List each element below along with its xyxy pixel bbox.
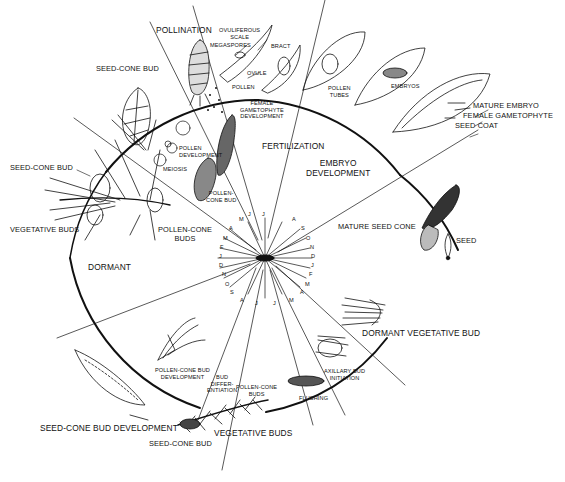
month-label: S <box>230 289 234 296</box>
seed-cone-bud-drawing <box>112 88 156 150</box>
phase-dormant: DORMANT <box>88 262 131 272</box>
bottom-branch-drawing <box>178 397 268 432</box>
label-pollen-cone-bud: POLLEN- CONE BUD <box>206 190 236 203</box>
phase-embryo-development: EMBRYO DEVELOPMENT <box>306 158 370 178</box>
spoke-hub <box>256 255 274 261</box>
label-ovule: OVULE <box>247 70 266 77</box>
label-seed: SEED <box>456 237 477 246</box>
label-seed-coat: SEED COAT <box>455 122 498 131</box>
month-label: J <box>311 262 314 269</box>
phase-pollination: POLLINATION <box>156 25 212 35</box>
label-embryos: EMBRYOS <box>391 83 420 90</box>
pollen-cone-bud-development-drawing <box>158 318 205 360</box>
label-ovuliferous-scale: OVULIFEROUS SCALE <box>219 27 260 40</box>
label-pollen-tubes: POLLEN TUBES <box>328 85 351 98</box>
month-label: M <box>223 235 228 242</box>
month-label: J <box>248 211 251 218</box>
label-pollen-cone-buds-bottom: POLLEN-CONE BUDS <box>236 384 277 397</box>
month-label: A <box>292 216 296 223</box>
phase-flushing: FLUSHING <box>299 395 328 402</box>
phase-axillary-bud-initiation: AXILLARY BUD INITIATION <box>324 368 365 381</box>
month-label: O <box>306 235 310 242</box>
label-bract: BRACT <box>271 43 290 50</box>
phase-seed-cone-bud-development: SEED-CONE BUD DEVELOPMENT <box>40 423 178 433</box>
phase-meiosis: MEIOSIS <box>163 166 187 173</box>
label-dormant-vegetative-bud: DORMANT VEGETATIVE BUD <box>362 328 480 338</box>
month-label: F <box>220 244 224 251</box>
label-seed-cone-bud-top: SEED-CONE BUD <box>96 65 159 74</box>
label-female-gametophyte: FEMALE GAMETOPHYTE <box>463 112 553 121</box>
label-mature-embryo: MATURE EMBRYO <box>473 102 539 111</box>
label-seed-cone-bud-bottom: SEED-CONE BUD <box>149 440 212 449</box>
label-pollen-cone-buds-left: POLLEN-CONE BUDS <box>158 226 212 243</box>
month-label: O <box>225 281 229 288</box>
label-megaspores: MEGASPORES <box>210 42 251 49</box>
month-label: M <box>305 281 310 288</box>
month-label: J <box>273 300 276 307</box>
phase-female-gametophyte-development: FEMALE GAMETOPHYTE DEVELOPMENT <box>240 100 284 120</box>
dormant-vegetative-bud-drawing <box>342 298 385 325</box>
label-pollen: POLLEN <box>232 84 255 91</box>
label-vegetative-buds-bottom: VEGETATIVE BUDS <box>214 428 292 438</box>
diagram-graphics <box>0 0 565 482</box>
month-label: J <box>262 211 265 218</box>
label-seed-cone-bud-left: SEED-CONE BUD <box>10 164 73 173</box>
month-label: A <box>240 297 244 304</box>
month-label: N <box>222 271 226 278</box>
month-label: M <box>289 297 294 304</box>
month-label: F <box>309 271 313 278</box>
month-label: M <box>239 216 244 223</box>
month-label: S <box>301 225 305 232</box>
pollen-cells <box>154 121 190 166</box>
phase-pollen-cone-bud-development: POLLEN-CONE BUD DEVELOPMENT <box>155 367 210 380</box>
month-label: D <box>311 253 315 260</box>
month-label: J <box>255 300 258 307</box>
axillary-bud-drawing <box>316 336 348 357</box>
flushing-drawing <box>288 376 324 386</box>
month-label: A <box>300 289 304 296</box>
month-label: J <box>219 253 222 260</box>
phase-pollen-development: POLLEN DEVELOPMENT <box>179 145 222 158</box>
mature-seed-cone-drawing <box>421 185 460 260</box>
conifer-reproductive-cycle-diagram: POLLINATION FEMALE GAMETOPHYTE DEVELOPME… <box>0 0 565 482</box>
label-mature-seed-cone: MATURE SEED CONE <box>338 223 416 232</box>
seed-cone-bud-development-drawing <box>75 350 148 420</box>
label-vegetative-buds-left: VEGETATIVE BUDS <box>10 226 79 235</box>
phase-fertilization: FERTILIZATION <box>262 141 324 151</box>
pollination-cone-drawing <box>189 40 210 106</box>
fertilization-ovules <box>303 32 490 132</box>
phase-bud-differentiation: BUD DIFFER- ENTIATION <box>207 374 237 394</box>
month-label: A <box>229 225 233 232</box>
month-label: D <box>219 262 223 269</box>
month-label: N <box>310 244 314 251</box>
